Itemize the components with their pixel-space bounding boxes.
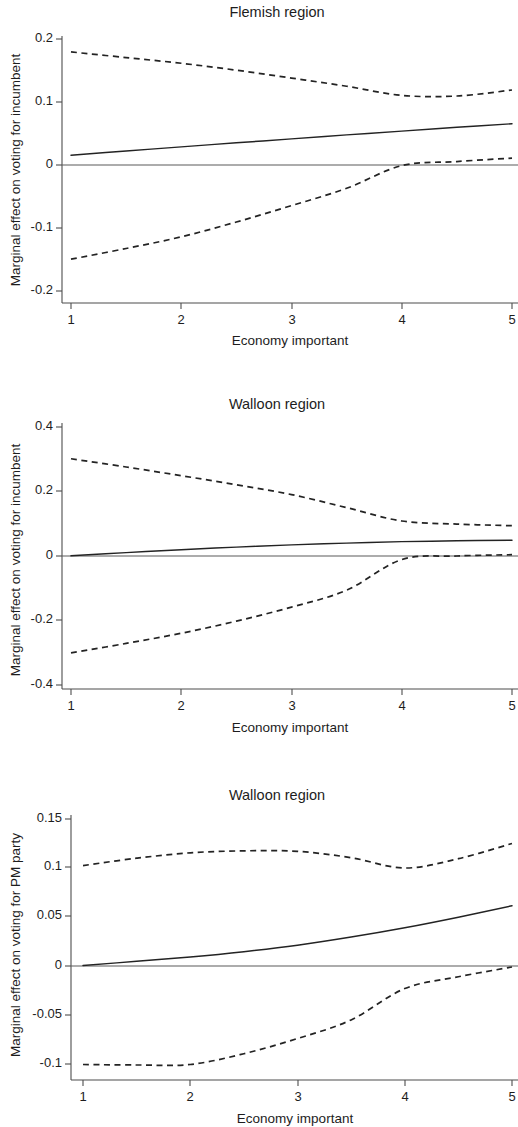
y-tick-label: -0.4 bbox=[31, 676, 53, 691]
x-tick-label: 4 bbox=[398, 312, 405, 327]
x-tick-group: 1 2 3 4 5 bbox=[67, 689, 515, 713]
y-tick-label: 0.1 bbox=[35, 93, 53, 108]
chart-panel-flemish-incumbent: Flemish region Marginal effect on voting… bbox=[0, 0, 518, 370]
y-axis-label: Marginal effect on voting for PM party bbox=[8, 833, 23, 1057]
lower-confidence-curve bbox=[71, 555, 512, 653]
x-tick-label: 2 bbox=[177, 312, 184, 327]
chart-panel-walloon-pm-party: Walloon region Marginal effect on voting… bbox=[0, 755, 518, 1127]
x-tick-label: 1 bbox=[67, 698, 74, 713]
y-tick-label: 0.2 bbox=[35, 482, 53, 497]
y-tick-label: -0.1 bbox=[31, 219, 53, 234]
x-tick-label: 4 bbox=[401, 1089, 408, 1104]
chart-svg-3: Walloon region Marginal effect on voting… bbox=[0, 755, 518, 1127]
figure-page: Flemish region Marginal effect on voting… bbox=[0, 0, 518, 1127]
upper-confidence-curve bbox=[71, 459, 512, 526]
y-axis-label: Marginal effect on voting for incumbent bbox=[8, 444, 23, 677]
upper-confidence-curve bbox=[71, 52, 512, 97]
chart-svg-1: Flemish region Marginal effect on voting… bbox=[0, 0, 518, 370]
upper-confidence-curve bbox=[83, 844, 512, 869]
y-tick-label: 0.05 bbox=[37, 907, 62, 922]
x-tick-group: 1 2 3 4 5 bbox=[79, 1080, 515, 1104]
x-axis-label: Economy important bbox=[237, 1111, 354, 1126]
y-tick-group: 0.4 0.2 0 -0.2 -0.4 bbox=[31, 418, 62, 691]
x-tick-label: 4 bbox=[398, 698, 405, 713]
y-tick-label: -0.1 bbox=[40, 1055, 62, 1070]
y-tick-label: -0.2 bbox=[31, 611, 53, 626]
x-tick-label: 2 bbox=[177, 698, 184, 713]
x-tick-label: 3 bbox=[288, 698, 295, 713]
y-tick-label: -0.05 bbox=[32, 1006, 62, 1021]
x-axis-label: Economy important bbox=[232, 333, 349, 348]
x-tick-label: 5 bbox=[508, 1089, 515, 1104]
y-tick-label: 0 bbox=[46, 156, 53, 171]
x-tick-label: 3 bbox=[294, 1089, 301, 1104]
y-axis-label: Marginal effect on voting for incumbent bbox=[8, 54, 23, 287]
y-tick-label: 0.15 bbox=[37, 810, 62, 825]
y-tick-label: -0.2 bbox=[31, 282, 53, 297]
marginal-effect-curve bbox=[83, 906, 512, 966]
y-tick-group: 0.15 0.1 0.05 0 -0.05 -0.1 bbox=[32, 810, 71, 1070]
x-tick-group: 1 2 3 4 5 bbox=[67, 303, 515, 327]
y-tick-label: 0.4 bbox=[35, 418, 53, 433]
y-tick-label: 0 bbox=[55, 957, 62, 972]
x-tick-label: 5 bbox=[508, 698, 515, 713]
x-tick-label: 3 bbox=[288, 312, 295, 327]
marginal-effect-curve bbox=[71, 124, 512, 156]
x-tick-label: 1 bbox=[67, 312, 74, 327]
chart-title: Walloon region bbox=[229, 396, 325, 412]
chart-title: Walloon region bbox=[229, 787, 325, 803]
x-axis-label: Economy important bbox=[232, 720, 349, 735]
chart-title: Flemish region bbox=[229, 4, 324, 20]
y-tick-label: 0.2 bbox=[35, 30, 53, 45]
chart-svg-2: Walloon region Marginal effect on voting… bbox=[0, 370, 518, 755]
y-tick-label: 0 bbox=[46, 547, 53, 562]
x-tick-label: 1 bbox=[79, 1089, 86, 1104]
marginal-effect-curve bbox=[71, 540, 512, 556]
lower-confidence-curve bbox=[83, 967, 512, 1065]
chart-panel-walloon-incumbent: Walloon region Marginal effect on voting… bbox=[0, 370, 518, 755]
x-tick-label: 2 bbox=[186, 1089, 193, 1104]
lower-confidence-curve bbox=[71, 158, 512, 259]
y-tick-label: 0.1 bbox=[44, 858, 62, 873]
y-tick-group: 0.2 0.1 0 -0.1 -0.2 bbox=[31, 30, 62, 297]
x-tick-label: 5 bbox=[508, 312, 515, 327]
